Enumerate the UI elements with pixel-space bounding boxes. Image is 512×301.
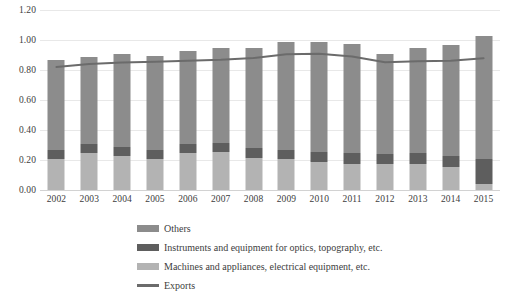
x-axis-tick-label: 2006	[178, 193, 197, 205]
y-axis-tick-label: 0.20	[0, 155, 36, 165]
x-axis-tick-label: 2015	[474, 193, 493, 205]
plot-wrapper: 1.201.000.800.600.400.200.00	[0, 0, 512, 212]
legend-item[interactable]: Others	[137, 219, 507, 238]
x-axis-tick-label: 2007	[211, 193, 230, 205]
legend-square-swatch-icon	[137, 244, 159, 251]
legend-item-label: Exports	[164, 280, 195, 291]
legend-item-label: Others	[164, 223, 191, 234]
plot-area	[40, 10, 500, 190]
x-axis-tick-label: 2008	[244, 193, 263, 205]
legend-item-label: Machines and appliances, electrical equi…	[164, 261, 370, 272]
x-axis-tick-label: 2009	[277, 193, 296, 205]
y-axis-tick-label: 0.00	[0, 185, 36, 195]
x-axis-tick-label: 2013	[408, 193, 427, 205]
exports-line	[40, 10, 500, 190]
y-axis-tick-label: 0.80	[0, 65, 36, 75]
y-axis-tick-label: 0.60	[0, 95, 36, 105]
legend-square-swatch-icon	[137, 225, 159, 232]
x-axis-tick-label: 2003	[80, 193, 99, 205]
x-axis: 2002200320042005200620072008200920102011…	[40, 193, 500, 211]
x-axis-tick-label: 2005	[145, 193, 164, 205]
x-axis-tick-label: 2012	[375, 193, 394, 205]
x-axis-tick-label: 2014	[441, 193, 460, 205]
gridline	[40, 190, 500, 191]
x-axis-tick-label: 2002	[47, 193, 66, 205]
legend-item-label: Instruments and equipment for optics, to…	[164, 242, 382, 253]
y-axis-tick-label: 0.40	[0, 125, 36, 135]
legend-item[interactable]: Machines and appliances, electrical equi…	[137, 257, 507, 276]
legend-item[interactable]: Instruments and equipment for optics, to…	[137, 238, 507, 257]
y-axis: 1.201.000.800.600.400.200.00	[0, 0, 36, 192]
legend-square-swatch-icon	[137, 263, 159, 270]
y-axis-tick-label: 1.00	[0, 35, 36, 45]
stacked-bar-chart: 1.201.000.800.600.400.200.00 20022003200…	[0, 0, 512, 301]
x-axis-tick-label: 2010	[310, 193, 329, 205]
legend-line-swatch-icon	[137, 284, 159, 287]
exports-line-path	[56, 54, 483, 67]
legend-item[interactable]: Exports	[137, 276, 507, 295]
x-axis-tick-label: 2004	[112, 193, 131, 205]
y-axis-tick-label: 1.20	[0, 5, 36, 15]
chart-legend: OthersInstruments and equipment for opti…	[137, 219, 507, 295]
exports-line-layer	[40, 10, 500, 190]
x-axis-tick-label: 2011	[343, 193, 362, 205]
